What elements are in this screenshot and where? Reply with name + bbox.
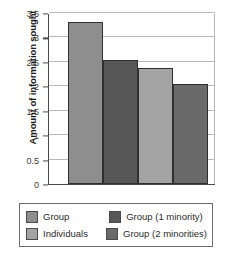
y-axis-tick-label: 3.5 xyxy=(13,9,39,19)
legend-swatch-icon xyxy=(26,228,38,240)
legend-row: Group Group (1 minority) xyxy=(26,208,206,225)
y-axis-tick-label: 3 xyxy=(13,33,39,43)
legend-swatch-icon xyxy=(109,211,121,223)
y-axis-tick-label: 1.5 xyxy=(13,107,39,117)
legend-label: Individuals xyxy=(43,228,88,239)
bar-chart-figure: Amount of information sought 00.511.522.… xyxy=(0,0,235,258)
y-axis-tick-label: 0 xyxy=(13,180,39,190)
legend-item-group-1-minority: Group (1 minority) xyxy=(109,211,206,223)
bar xyxy=(173,84,208,184)
y-axis-tick-label: 1 xyxy=(13,131,39,141)
legend-swatch-icon xyxy=(106,228,118,240)
y-axis-tick-label: 2.5 xyxy=(13,58,39,68)
y-axis-tick-label: 2 xyxy=(13,82,39,92)
chart-legend: Group Group (1 minority) Individuals Gro… xyxy=(19,203,213,247)
legend-row: Individuals Group (2 minorities) xyxy=(26,225,206,242)
bar xyxy=(68,22,103,184)
legend-label: Group (2 minorities) xyxy=(123,228,207,239)
legend-item-group-2-minorities: Group (2 minorities) xyxy=(106,228,206,240)
legend-item-group: Group xyxy=(26,211,109,223)
legend-swatch-icon xyxy=(26,211,38,223)
bar xyxy=(103,60,138,184)
y-axis-tick-label: 0.5 xyxy=(13,156,39,166)
bar xyxy=(138,68,173,184)
gridline xyxy=(49,12,215,13)
bar-group xyxy=(49,14,215,184)
legend-label: Group (1 minority) xyxy=(126,211,203,222)
legend-label: Group xyxy=(43,211,69,222)
plot-area xyxy=(48,14,215,185)
legend-item-individuals: Individuals xyxy=(26,228,106,240)
